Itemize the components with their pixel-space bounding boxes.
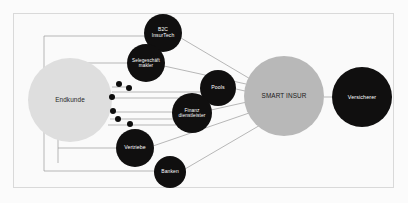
node-label-versicherer: Versicherer [346, 94, 378, 100]
node-label-smart-insur: SMART INSUR [260, 92, 309, 99]
node-selegeschaeft-makler[interactable]: Selegeschäft makler [127, 44, 165, 82]
diagram-canvas: EndkundeB2C InsurTechSelegeschäft makler… [0, 0, 408, 203]
node-smart-insur[interactable]: SMART INSUR [244, 56, 324, 136]
node-finanzdienstleister[interactable]: Finanz dienstleister [172, 93, 212, 133]
node-label-endkunde: Endkunde [53, 96, 87, 103]
node-versicherer[interactable]: Versicherer [332, 67, 392, 127]
connector-dot-6 [127, 121, 133, 127]
connector-dot-5 [115, 116, 121, 122]
connector-dot-4 [110, 108, 116, 114]
node-banken[interactable]: Banken [154, 156, 186, 188]
node-label-pools: Pools [209, 85, 226, 91]
node-label-banken: Banken [159, 169, 181, 175]
connector-dot-3 [109, 94, 115, 100]
connector-dot-2 [126, 85, 132, 91]
node-label-b2c-insurtech: B2C InsurTech [150, 27, 177, 38]
node-label-vertriebe: Vertriebe [122, 145, 148, 151]
node-label-finanzdienstleister: Finanz dienstleister [177, 108, 208, 119]
node-endkunde[interactable]: Endkunde [28, 58, 112, 142]
node-vertriebe[interactable]: Vertriebe [116, 129, 154, 167]
connector-dot-1 [116, 81, 122, 87]
node-label-selegeschaeft-makler: Selegeschäft makler [130, 58, 162, 68]
